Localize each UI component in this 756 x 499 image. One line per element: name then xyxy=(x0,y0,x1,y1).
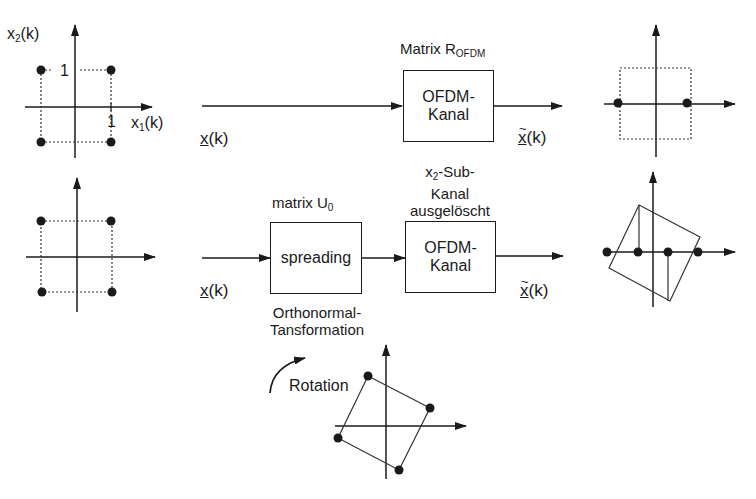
title-line3: ausgelöscht xyxy=(395,202,505,219)
block-line2: Kanal xyxy=(422,106,474,124)
constellation-input-row2 xyxy=(26,178,155,312)
y-axis-label-row1: x2(k) xyxy=(7,25,39,47)
block-line1: OFDM- xyxy=(424,239,476,257)
constellation-input-row1 xyxy=(25,25,152,158)
row1-block-title: Matrix ROFDM xyxy=(400,40,485,62)
caption-line2: Tansformation xyxy=(262,321,372,338)
block-title-main: Matrix R xyxy=(400,40,456,57)
spreading-block-title: matrix U0 xyxy=(272,194,333,216)
row2-input-signal-label: x(k) xyxy=(200,282,228,299)
constellation-rotated xyxy=(334,345,467,479)
y-axis-arg: (k) xyxy=(21,25,40,42)
y-axis-var: x xyxy=(7,25,15,42)
row1-output-signal-label: x(k) xyxy=(518,129,546,146)
title-rest: -Sub- xyxy=(438,163,475,180)
spreading-caption: Orthonormal- Tansformation xyxy=(262,304,372,338)
rotation-label: Rotation xyxy=(289,377,349,394)
caption-line1: Orthonormal- xyxy=(262,304,372,321)
block-line1: OFDM- xyxy=(422,88,474,106)
channel-block-title-row2: x2-Sub- Kanal ausgelöscht xyxy=(395,163,505,219)
block-title-sub: OFDM xyxy=(456,48,485,59)
row1-input-signal-label: x(k) xyxy=(200,130,228,147)
spreading-block: spreading xyxy=(270,222,362,294)
spreading-label: spreading xyxy=(281,249,351,267)
signal-var: x xyxy=(520,282,529,299)
signal-arg: (k) xyxy=(529,281,549,300)
constellation-output-row1 xyxy=(604,25,735,157)
x-axis-arg: (k) xyxy=(145,114,164,131)
constellation-output-row2 xyxy=(603,172,736,307)
block-title-sub: 0 xyxy=(328,202,334,213)
ofdm-channel-block-row1: OFDM- Kanal xyxy=(403,70,494,142)
signal-var: x xyxy=(200,129,209,148)
ofdm-channel-block-row2: OFDM- Kanal xyxy=(405,221,496,293)
block-title-main: matrix U xyxy=(272,194,328,211)
x-axis-label-row1: x1(k) xyxy=(131,114,163,136)
signal-arg: (k) xyxy=(209,281,229,300)
title-var: x xyxy=(425,163,433,180)
tick-x-1: 1 xyxy=(107,113,116,130)
signal-var: x xyxy=(518,129,527,146)
signal-var: x xyxy=(200,281,209,300)
x-axis-var: x xyxy=(131,114,139,131)
diagram-canvas xyxy=(0,0,756,499)
signal-arg: (k) xyxy=(209,129,229,148)
block-line2: Kanal xyxy=(424,257,476,275)
signal-arg: (k) xyxy=(527,128,547,147)
title-line2: Kanal xyxy=(395,185,505,202)
tick-y-1: 1 xyxy=(60,62,69,79)
row2-output-signal-label: x(k) xyxy=(520,282,548,299)
